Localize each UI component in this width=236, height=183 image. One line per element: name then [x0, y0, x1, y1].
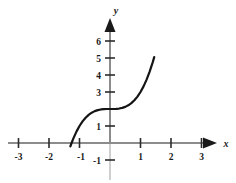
- y-tick-label--1: -1: [93, 156, 101, 166]
- x-tick-label-2: 2: [169, 152, 174, 162]
- y-tick-label-4: 4: [96, 71, 101, 81]
- y-tick-label-1: 1: [96, 122, 101, 132]
- x-tick-label-1: 1: [138, 152, 143, 162]
- y-tick-label-5: 5: [96, 54, 101, 64]
- y-axis-label: y: [113, 5, 119, 16]
- y-tick-label-3: 3: [96, 88, 101, 98]
- x-tick-label--2: -2: [45, 152, 53, 162]
- cubic-function-graph: -3 -2 -1 1 2 3 -1 1 3 4 5 6 y x: [0, 0, 236, 183]
- x-tick-label-3: 3: [199, 152, 204, 162]
- y-tick-label-6: 6: [96, 37, 101, 47]
- plot-area: -3 -2 -1 1 2 3 -1 1 3 4 5 6 y x: [0, 0, 236, 183]
- x-tick-label--1: -1: [77, 152, 85, 162]
- x-tick-label--3: -3: [15, 152, 23, 162]
- x-axis-label: x: [223, 138, 229, 149]
